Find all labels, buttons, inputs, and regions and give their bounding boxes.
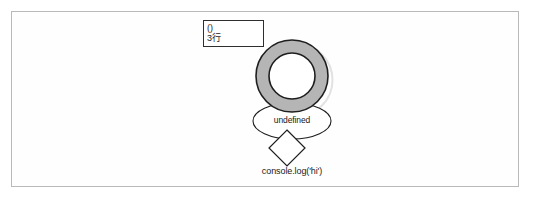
return-value-label: undefined	[268, 115, 316, 125]
figure-canvas: () 3行 undefined console.log('hi')	[0, 0, 533, 198]
annotation-line-1: ()	[207, 23, 213, 33]
annotation-line-2: 3行	[207, 33, 221, 43]
code-caption: console.log('hi')	[240, 166, 344, 176]
call-stack-annotation: () 3行	[203, 20, 264, 47]
torus-node-shape	[256, 40, 328, 112]
